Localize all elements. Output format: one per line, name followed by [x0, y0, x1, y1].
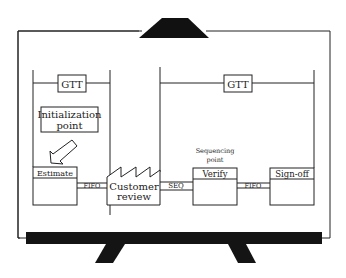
whiteboard-diagram: GTT GTT Initialization point Estimate FI… [0, 0, 346, 278]
connector-fifo-1-label: FIFO [84, 182, 101, 190]
customer-review-line2: review [117, 191, 151, 202]
stage-verify: Verify [193, 168, 237, 205]
initialization-point-line1: Initialization [37, 109, 102, 120]
stage-customer-review: Customer review [107, 167, 160, 205]
initialization-point-line2: point [56, 120, 82, 131]
gtt-left-label: GTT [61, 79, 83, 90]
connector-seq-label: SEQ [168, 182, 184, 190]
connector-fifo-2: FIFO [237, 182, 270, 190]
board-bottom-tray [26, 232, 322, 244]
stage-estimate: Estimate [33, 167, 77, 205]
board-leg-left [95, 244, 125, 263]
connector-seq: SEQ [160, 182, 193, 190]
connector-fifo-2-label: FIFO [245, 182, 262, 190]
stage-signoff: Sign-off [270, 168, 314, 205]
estimate-label: Estimate [37, 169, 73, 178]
connector-fifo-1: FIFO [77, 182, 107, 190]
board-frame [18, 31, 139, 238]
verify-label: Verify [201, 169, 227, 179]
down-left-arrow-icon [50, 140, 77, 164]
sequencing-point-line1: Sequencing [196, 147, 235, 155]
gtt-right-label: GTT [227, 79, 249, 90]
gtt-bracket-right: GTT [160, 67, 314, 172]
signoff-label: Sign-off [275, 169, 309, 179]
sequencing-point-line2: point [207, 156, 224, 164]
board-top-clip [139, 18, 209, 38]
board-leg-right [228, 244, 256, 263]
